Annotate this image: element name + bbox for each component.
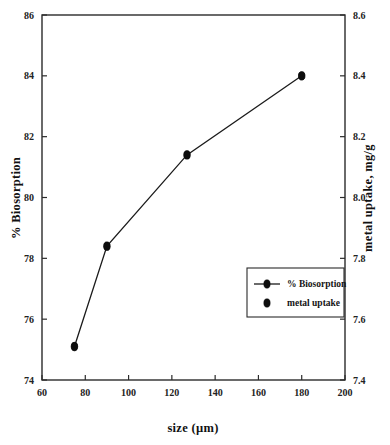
data-point [71,342,77,350]
x-tick-label: 160 [251,387,266,398]
y-axis-title: % Biosorption [9,157,23,239]
y-tick-label: 78 [24,253,34,264]
data-point [104,242,110,250]
y2-tick-label: 8.2 [353,131,366,142]
x-tick-label: 100 [121,387,136,398]
legend[interactable]: % Biosorptionmetal uptake [247,268,347,317]
y-tick-label: 80 [24,192,34,203]
legend-marker-0 [264,280,270,288]
biosorption-vs-size-chart: 74767880828486 7.47.67.88.08.28.48.6 608… [0,0,390,445]
y2-tick-label: 7.6 [353,314,366,325]
y2-tick-label: 7.8 [353,253,366,264]
y-tick-label: 82 [24,131,34,142]
y2-tick-label: 8.6 [353,10,366,21]
y2-tick-label: 7.4 [353,375,366,386]
x-tick-label: 60 [37,387,47,398]
chart-background [0,0,390,445]
x-tick-label: 200 [338,387,353,398]
y-tick-label: 84 [24,70,34,81]
x-tick-label: 140 [208,387,223,398]
y2-tick-label: 8.4 [353,70,366,81]
data-point [184,151,190,159]
y-tick-label: 74 [24,375,34,386]
legend-border [247,268,344,317]
legend-label-0[interactable]: % Biosorption [287,279,347,289]
y-tick-label: 76 [24,314,34,325]
chart-container: 74767880828486 7.47.67.88.08.28.48.6 608… [0,0,390,445]
x-axis-title: size (µm) [167,421,218,435]
x-tick-label: 180 [294,387,309,398]
x-tick-label: 80 [80,387,90,398]
y2-axis-title: metal uptake, mg/g [361,144,375,252]
legend-label-1[interactable]: metal uptake [287,298,340,308]
y-tick-label: 86 [24,10,34,21]
x-tick-label: 120 [164,387,179,398]
data-point [299,72,305,80]
legend-marker-1 [264,299,270,307]
